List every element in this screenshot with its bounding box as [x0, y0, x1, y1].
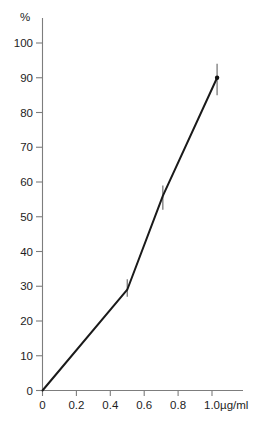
y-tick-label: 30: [20, 280, 33, 292]
x-tick-label: 1.0: [204, 399, 220, 411]
y-tick-label: 90: [20, 72, 33, 84]
x-tick-label: 0.8: [170, 399, 186, 411]
y-tick-label: 50: [20, 211, 33, 223]
chart-figure: % 0102030405060708090100 00.20.40.60.81.…: [0, 0, 270, 425]
y-tick-label: 60: [20, 176, 33, 188]
data-point-markers: [215, 76, 219, 80]
x-tick-label: 0.2: [68, 399, 84, 411]
y-tick-label: 80: [20, 107, 33, 119]
y-axis-unit-label: %: [20, 11, 30, 23]
y-tick-label: 20: [20, 315, 33, 327]
y-tick-label: 40: [20, 246, 33, 258]
line-chart-svg: % 0102030405060708090100 00.20.40.60.81.…: [0, 0, 270, 425]
y-tick-label: 0: [27, 385, 33, 397]
data-point-marker: [215, 76, 219, 80]
chart-background: [0, 0, 270, 425]
x-tick-label: 0.4: [102, 399, 119, 411]
x-axis-unit-label: µg/ml: [220, 399, 248, 411]
y-tick-label: 10: [20, 350, 33, 362]
x-tick-label: 0.6: [136, 399, 152, 411]
x-tick-label: 0: [39, 399, 45, 411]
y-tick-label: 100: [14, 37, 33, 49]
y-tick-label: 70: [20, 141, 33, 153]
